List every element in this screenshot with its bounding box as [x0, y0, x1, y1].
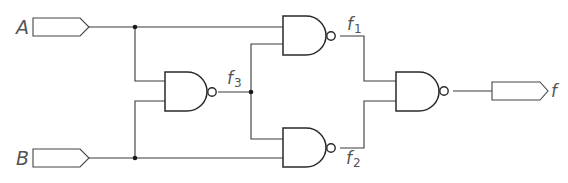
junction-dot-a: [133, 25, 138, 30]
nand-gate-g1: [283, 16, 335, 55]
nand-gate-output: [396, 72, 448, 111]
signal-label-f1: f1: [347, 14, 362, 36]
inversion-bubble-output: [440, 87, 448, 95]
wire-f1: [340, 36, 396, 81]
logic-circuit-diagram: A B: [0, 0, 568, 183]
input-label-b: B: [16, 147, 29, 169]
input-connector-a: [33, 18, 89, 36]
signal-label-f2-sub: 2: [353, 156, 361, 170]
junction-dot-f3: [249, 90, 254, 95]
input-connector-b: [33, 149, 89, 167]
signal-label-f1-sub: 1: [354, 22, 362, 36]
nand-gate-g3: [165, 72, 216, 111]
signal-label-f2: f2: [346, 148, 361, 170]
wire-a-to-g3: [135, 27, 165, 81]
wire-f3-distribution: [251, 44, 283, 139]
signal-label-f3-sub: 3: [234, 76, 242, 90]
junction-dot-b: [133, 156, 138, 161]
inversion-bubble-g1: [327, 32, 335, 40]
output-label-f: f: [551, 81, 560, 101]
nand-gate-g2: [283, 128, 335, 167]
wire-f2: [340, 101, 396, 148]
inversion-bubble-g3: [208, 88, 216, 96]
wire-b-to-g3: [135, 101, 165, 158]
signal-label-f3: f3: [227, 68, 242, 90]
input-label-a: A: [14, 16, 29, 38]
output-connector-f: [492, 82, 548, 100]
inversion-bubble-g2: [327, 144, 335, 152]
